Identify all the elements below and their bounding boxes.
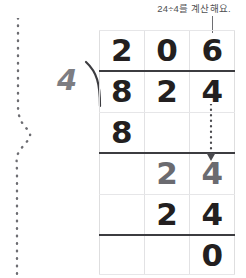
divisor-value: 4 [57, 66, 77, 95]
row-final-remainder: 0 [99, 235, 235, 276]
second-product-digit-hundreds [99, 194, 144, 235]
row-second-product: 2 4 [99, 194, 235, 235]
quotient-digit-tens: 0 [144, 30, 189, 71]
quotient-digit-hundreds: 2 [99, 30, 144, 71]
final-remainder-digit-tens [144, 235, 189, 276]
dotted-down-arrow-icon [205, 104, 217, 166]
dotted-fold-line-icon [0, 18, 46, 278]
first-remainder-digit-tens: 2 [144, 153, 189, 194]
annotation-text: 24÷4를 계산해요. [142, 1, 246, 15]
second-product-digit-ones: 4 [190, 194, 235, 235]
dividend-digit-hundreds: 8 [99, 71, 144, 112]
final-remainder-digit-ones: 0 [190, 235, 235, 276]
second-product-digit-tens: 2 [144, 194, 189, 235]
worksheet-page: 24÷4를 계산해요. 4 2 0 6 [0, 0, 246, 278]
first-product-digit-hundreds: 8 [99, 112, 144, 153]
first-product-digit-tens [144, 112, 189, 153]
row-quotient: 2 0 6 [99, 30, 235, 71]
final-remainder-digit-hundreds [99, 235, 144, 276]
dividend-digit-tens: 2 [144, 71, 189, 112]
quotient-digit-ones: 6 [190, 30, 235, 71]
first-remainder-digit-hundreds [99, 153, 144, 194]
